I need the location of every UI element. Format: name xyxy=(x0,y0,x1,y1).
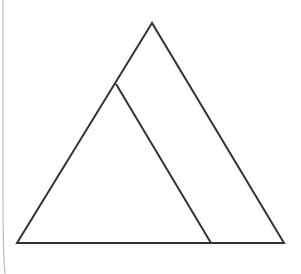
page-edge xyxy=(3,0,5,274)
inner-parallel-segment xyxy=(116,84,211,243)
outer-triangle xyxy=(17,23,284,243)
triangle-diagram xyxy=(0,0,301,274)
